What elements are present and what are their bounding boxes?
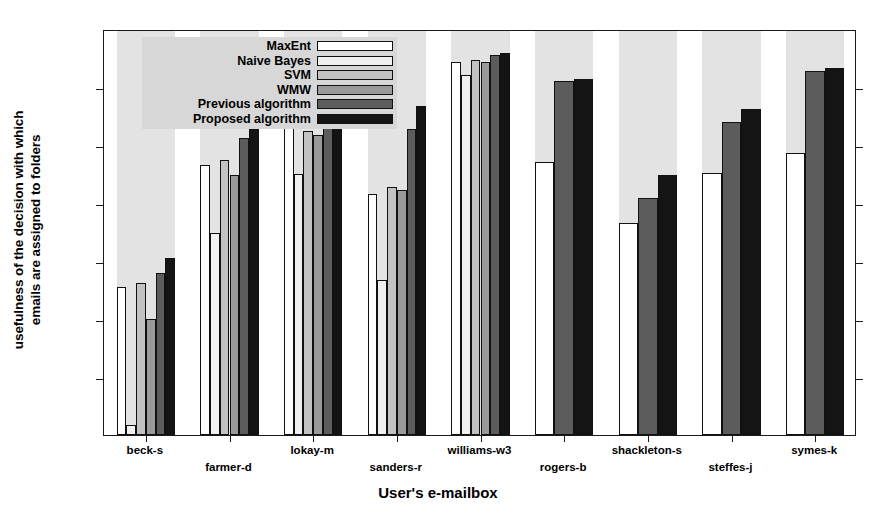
x-axis-tick: [146, 435, 147, 442]
bar: [490, 55, 500, 435]
bar: [303, 131, 313, 436]
legend-item-label: WMW: [277, 83, 311, 97]
bar: [407, 129, 417, 435]
bar: [535, 162, 555, 435]
bar-chart-figure: usefulness of the decision with which em…: [0, 0, 876, 514]
y-axis-label-line-1: usefulness of the decision with which: [11, 111, 28, 350]
x-axis-tick-label: shackleton-s: [612, 444, 682, 456]
x-axis-tick-label: sanders-r: [370, 461, 422, 473]
bar: [805, 71, 825, 435]
y-axis-tick-right: [855, 379, 863, 380]
bar: [461, 75, 471, 435]
x-axis-tick: [397, 435, 398, 442]
plot-area: MaxEntNaive BayesSVMWMWPrevious algorith…: [103, 30, 856, 436]
x-axis-tick-label: williams-w3: [448, 444, 512, 456]
bar: [574, 79, 594, 435]
bar: [323, 96, 333, 435]
x-axis-tick-label: beck-s: [127, 444, 163, 456]
bar: [210, 233, 220, 435]
legend-item-label: Previous algorithm: [198, 97, 311, 111]
y-axis-tick: [96, 263, 104, 264]
legend-item-label: MaxEnt: [267, 39, 311, 53]
legend-swatch: [317, 41, 393, 51]
y-axis-tick: [96, 321, 104, 322]
y-axis-tick-right: [855, 321, 863, 322]
x-axis-tick-label: rogers-b: [540, 461, 587, 473]
y-axis-tick-right: [855, 263, 863, 264]
bar: [294, 174, 304, 435]
x-axis-tick: [564, 435, 565, 442]
bar: [658, 175, 678, 435]
x-axis-tick: [230, 435, 231, 442]
bar: [471, 60, 481, 435]
legend-item: Previous algorithm: [146, 97, 393, 112]
bar: [786, 153, 806, 435]
y-axis-label-line-2: emails are assigned to folders: [28, 111, 45, 350]
y-axis-tick: [96, 89, 104, 90]
bar: [722, 122, 742, 435]
y-axis-tick: [96, 379, 104, 380]
y-axis-tick: [96, 205, 104, 206]
legend-swatch: [317, 99, 393, 109]
bar: [368, 194, 378, 435]
bar: [619, 223, 639, 435]
x-axis-tick: [313, 435, 314, 442]
bar: [741, 109, 761, 435]
legend-item-label: SVM: [284, 68, 311, 82]
x-axis-tick-label: symes-k: [791, 444, 837, 456]
x-axis-tick-label: farmer-d: [205, 461, 252, 473]
x-axis-tick-label: lokay-m: [290, 444, 333, 456]
x-axis-label: User's e-mailbox: [0, 484, 876, 501]
x-axis-tick: [648, 435, 649, 442]
bar: [451, 62, 461, 435]
bar: [230, 175, 240, 435]
bar: [313, 135, 323, 435]
bar: [825, 68, 845, 435]
legend-swatch: [317, 70, 393, 80]
bar: [554, 81, 574, 435]
bar: [165, 258, 175, 435]
y-axis-tick: [96, 147, 104, 148]
bar: [136, 283, 146, 435]
legend-item: SVM: [146, 68, 393, 83]
bar: [702, 173, 722, 435]
bar: [220, 160, 230, 436]
chart-legend: MaxEntNaive BayesSVMWMWPrevious algorith…: [142, 37, 397, 129]
bar: [500, 53, 510, 435]
bar: [416, 106, 426, 435]
y-axis-tick-right: [855, 205, 863, 206]
x-axis-tick: [815, 435, 816, 442]
bar: [481, 62, 491, 435]
legend-item: Proposed algorithm: [146, 112, 393, 127]
bar: [126, 425, 136, 435]
legend-swatch: [317, 114, 393, 124]
legend-item-label: Proposed algorithm: [193, 112, 311, 126]
bar: [239, 138, 249, 435]
legend-item-label: Naive Bayes: [237, 54, 311, 68]
bar: [200, 165, 210, 435]
bar: [284, 125, 294, 435]
bar: [249, 123, 259, 435]
legend-swatch: [317, 85, 393, 95]
y-axis-label: usefulness of the decision with which em…: [0, 0, 56, 460]
y-axis-tick-right: [855, 89, 863, 90]
legend-swatch: [317, 56, 393, 66]
legend-item: MaxEnt: [146, 39, 393, 54]
x-axis-tick: [732, 435, 733, 442]
bar: [397, 190, 407, 435]
legend-item: WMW: [146, 83, 393, 98]
bar: [377, 280, 387, 435]
x-axis-tick-label: steffes-j: [708, 461, 752, 473]
bar: [117, 287, 127, 435]
bar: [156, 273, 166, 435]
y-axis-tick-right: [855, 147, 863, 148]
bar: [333, 94, 343, 435]
bar: [387, 187, 397, 435]
legend-item: Naive Bayes: [146, 54, 393, 69]
bar: [638, 198, 658, 435]
x-axis-tick: [481, 435, 482, 442]
bar: [146, 319, 156, 435]
